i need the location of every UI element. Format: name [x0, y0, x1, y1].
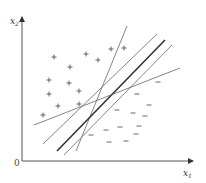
hyperplane-lines	[34, 26, 180, 155]
x-axis-label: x1	[183, 168, 192, 179]
plus-point	[96, 58, 101, 63]
negative-class-points	[89, 82, 161, 142]
plus-point	[84, 52, 89, 57]
plus-point	[67, 81, 72, 86]
plus-point	[109, 47, 114, 52]
origin-label: 0	[14, 158, 20, 168]
plus-point	[56, 104, 61, 109]
lower-margin-line	[64, 45, 172, 155]
flat-line	[34, 68, 180, 125]
optimal-hyperplane	[57, 40, 165, 151]
separating-hyperplanes-diagram: 0 x2 x1	[0, 0, 206, 183]
plus-point	[52, 55, 57, 60]
plus-point	[47, 92, 52, 97]
plus-point	[47, 78, 52, 83]
steep-line	[76, 26, 127, 151]
y-axis-label: x2	[10, 16, 19, 27]
upper-margin-line	[43, 34, 157, 144]
positive-class-points	[41, 46, 127, 118]
plus-point	[77, 102, 82, 107]
plus-point	[77, 89, 82, 94]
plus-point	[122, 46, 127, 51]
plus-point	[41, 113, 46, 118]
plus-point	[68, 65, 73, 70]
